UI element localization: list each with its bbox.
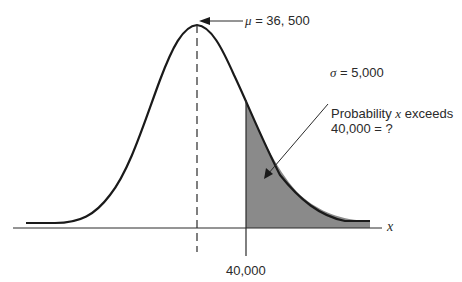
normal-distribution-diagram: μ = 36, 500 σ = 5,000 Probability x exce… [0, 0, 462, 282]
mu-arrowhead-icon [199, 17, 210, 25]
diagram-graphics [0, 0, 462, 282]
mu-value: = 36, 500 [252, 13, 310, 28]
probability-question-line1: Probability x exceeds [331, 106, 453, 121]
mean-label: μ = 36, 500 [245, 13, 310, 28]
normal-curve [26, 25, 370, 223]
x-axis-label: x [387, 219, 393, 234]
probability-arrow-line [268, 104, 328, 174]
probability-question-line2: 40,000 = ? [331, 121, 393, 136]
tick-label-40000: 40,000 [226, 263, 266, 278]
sigma-label: σ = 5,000 [330, 65, 384, 80]
sigma-value: = 5,000 [336, 65, 383, 80]
